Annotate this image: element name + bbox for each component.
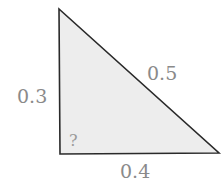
- right-triangle-diagram: 0.3 0.5 0.4 ?: [0, 0, 224, 191]
- horizontal-leg-label: 0.4: [120, 160, 150, 182]
- unknown-angle-marker: ?: [69, 131, 78, 150]
- triangle-shape: [59, 9, 219, 154]
- hypotenuse-label: 0.5: [147, 62, 177, 84]
- vertical-leg-label: 0.3: [17, 85, 47, 107]
